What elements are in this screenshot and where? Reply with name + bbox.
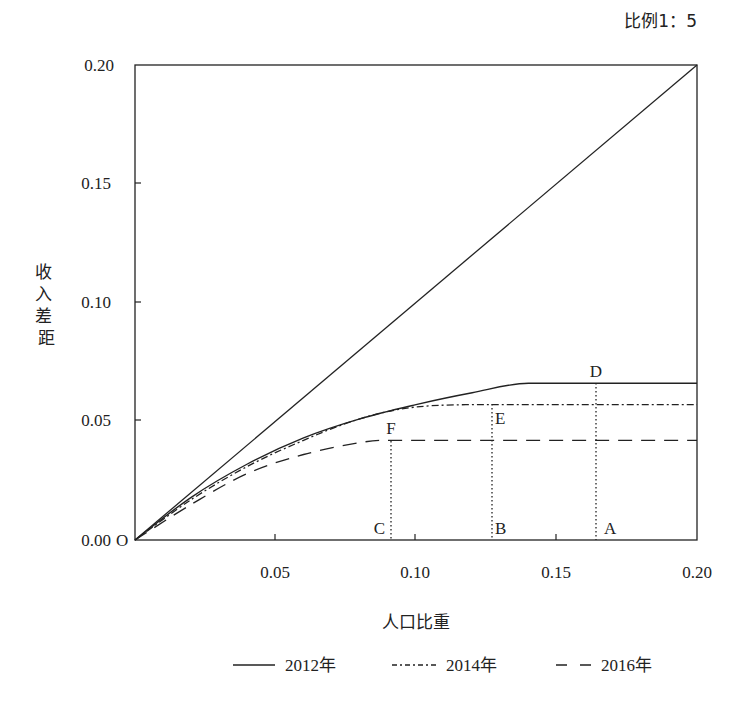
legend-label-2014: 2014年 [446, 656, 497, 675]
point-label-a: A [604, 519, 617, 538]
legend-label-2016: 2016年 [601, 656, 652, 675]
point-label-e: E [495, 409, 505, 428]
legend: 2012年 2014年 2016年 [233, 656, 652, 675]
point-label-c: C [374, 519, 385, 538]
x-axis-title: 人口比重 [382, 612, 450, 632]
y-tick-label: 0.10 [81, 293, 111, 312]
x-tick-label: 0.15 [541, 563, 571, 582]
y-tick-label: 0.00 [81, 531, 111, 550]
point-label-f: F [386, 419, 395, 438]
y-tick-label: 0.20 [84, 56, 114, 75]
y-tick-label: 0.15 [81, 174, 111, 193]
point-label-d: D [590, 362, 602, 381]
ratio-annotation: 比例1：5 [624, 11, 697, 31]
series-2012-line [135, 383, 697, 540]
y-axis-ticks [135, 183, 141, 420]
chart-canvas: 比例1：5 0.20 0.15 0.10 0.05 0.00 O 0.05 0.… [0, 0, 753, 707]
y-tick-label: 0.05 [81, 411, 111, 430]
y-axis-title: 收 入 差 距 [35, 262, 57, 348]
x-axis-ticks [275, 534, 556, 540]
point-label-b: B [495, 519, 506, 538]
origin-label: O [116, 531, 128, 550]
x-tick-label: 0.10 [400, 563, 430, 582]
legend-label-2012: 2012年 [285, 656, 336, 675]
x-tick-label: 0.20 [682, 563, 712, 582]
x-tick-label: 0.05 [260, 563, 290, 582]
ratio-reference-line [135, 65, 697, 540]
